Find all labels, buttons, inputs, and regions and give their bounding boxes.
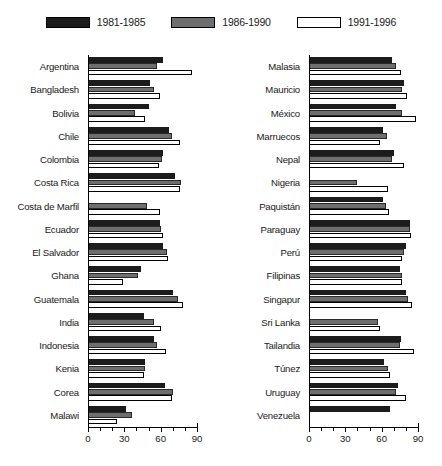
bar-1986-1990 — [310, 110, 402, 116]
bar-1991-1996 — [310, 279, 402, 285]
axis-tick-label: 60 — [376, 433, 387, 444]
category-label: Venezuela — [221, 404, 305, 427]
category-label: Uruguay — [221, 381, 305, 404]
axis-tick — [394, 427, 395, 431]
axis-tick — [370, 427, 371, 431]
category-label: Malasia — [221, 55, 305, 78]
axis-tick — [309, 427, 310, 432]
bar-1986-1990 — [310, 389, 396, 395]
bar-1991-1996 — [310, 140, 380, 146]
bar-1991-1996 — [89, 93, 160, 99]
bar-1991-1996 — [89, 395, 172, 401]
bar-1986-1990 — [89, 342, 157, 348]
category-label: Bangladesh — [0, 78, 84, 101]
bar-1986-1990 — [89, 110, 135, 116]
bar-1981-1985 — [89, 220, 160, 226]
bar-group — [89, 334, 197, 357]
bar-group — [89, 125, 197, 148]
bar-1991-1996 — [89, 326, 161, 332]
axis-tick — [136, 427, 137, 431]
bar-group — [310, 241, 418, 264]
bar-1986-1990 — [89, 296, 178, 302]
legend-entry-1991-1996: 1991-1996 — [297, 16, 396, 28]
bar-1981-1985 — [89, 266, 141, 272]
bar-1981-1985 — [89, 383, 165, 389]
bar-1986-1990 — [89, 63, 157, 69]
bar-group — [310, 264, 418, 287]
bar-1981-1985 — [310, 243, 406, 249]
bar-1991-1996 — [310, 116, 416, 122]
legend-entry-1986-1990: 1986-1990 — [171, 16, 270, 28]
bar-1986-1990 — [89, 319, 154, 325]
bar-1986-1990 — [89, 203, 147, 209]
chart-panels: ArgentinaBangladeshBoliviaChileColombiaC… — [0, 38, 442, 448]
bar-1981-1985 — [310, 406, 390, 412]
category-label: Bolivia — [0, 102, 84, 125]
category-label: Nepal — [221, 148, 305, 171]
bar-1981-1985 — [89, 243, 163, 249]
category-label: Filipinas — [221, 264, 305, 287]
chart-legend: 1981-1985 1986-1990 1991-1996 — [0, 14, 442, 30]
axis-endcap — [197, 423, 198, 428]
bar-1981-1985 — [310, 383, 398, 389]
bar-group — [89, 288, 197, 311]
category-label: Kenia — [0, 357, 84, 380]
axis-endcap — [418, 423, 419, 428]
axis-tick — [345, 427, 346, 432]
axis-tick-label: 60 — [155, 433, 166, 444]
category-label: Perú — [221, 241, 305, 264]
bar-1981-1985 — [89, 406, 126, 412]
axis-tick — [185, 427, 186, 431]
bar-1991-1996 — [89, 140, 180, 146]
category-label: Paraguay — [221, 218, 305, 241]
bar-1981-1985 — [89, 290, 173, 296]
bar-1986-1990 — [89, 133, 172, 139]
category-label: Colombia — [0, 148, 84, 171]
axis-tick — [149, 427, 150, 431]
category-label: Ecuador — [0, 218, 84, 241]
category-label: Ghana — [0, 264, 84, 287]
bar-group — [310, 288, 418, 311]
bar-1981-1985 — [89, 359, 145, 365]
bar-group — [310, 125, 418, 148]
category-label: México — [221, 102, 305, 125]
legend-label-series-0: 1981-1985 — [97, 16, 145, 28]
axis-tick-label: 0 — [85, 433, 90, 444]
bar-1986-1990 — [310, 226, 410, 232]
axis-tick — [173, 427, 174, 431]
bar-1981-1985 — [310, 290, 406, 296]
bar-1986-1990 — [310, 63, 396, 69]
bar-1991-1996 — [89, 372, 144, 378]
bar-1991-1996 — [310, 93, 407, 99]
legend-swatch-series-2 — [297, 17, 341, 28]
axis-tick — [88, 427, 89, 432]
axis-tick — [333, 427, 334, 431]
bar-1981-1985 — [89, 127, 169, 133]
bar-group — [310, 334, 418, 357]
bar-group — [310, 171, 418, 194]
bar-1981-1985 — [89, 80, 150, 86]
bar-group — [310, 381, 418, 404]
category-label: India — [0, 311, 84, 334]
bar-1991-1996 — [89, 209, 160, 215]
bar-1991-1996 — [89, 116, 145, 122]
axis-line — [88, 427, 197, 428]
category-label: Costa de Marfil — [0, 195, 84, 218]
bar-1991-1996 — [310, 256, 402, 262]
axis-line — [309, 427, 418, 428]
bar-1991-1996 — [310, 302, 412, 308]
category-label: Malawi — [0, 404, 84, 427]
bar-group — [89, 404, 197, 427]
category-label: Corea — [0, 381, 84, 404]
bar-1991-1996 — [310, 395, 406, 401]
bar-1986-1990 — [310, 296, 408, 302]
bar-group — [89, 55, 197, 78]
bar-group — [310, 78, 418, 101]
value-axis-right: 0306090 — [309, 427, 418, 449]
plot-area-right — [309, 55, 418, 427]
category-label: Paquistán — [221, 195, 305, 218]
bar-1991-1996 — [310, 233, 411, 239]
legend-swatch-series-0 — [46, 17, 90, 28]
bar-1981-1985 — [310, 127, 383, 133]
bar-1991-1996 — [310, 186, 388, 192]
